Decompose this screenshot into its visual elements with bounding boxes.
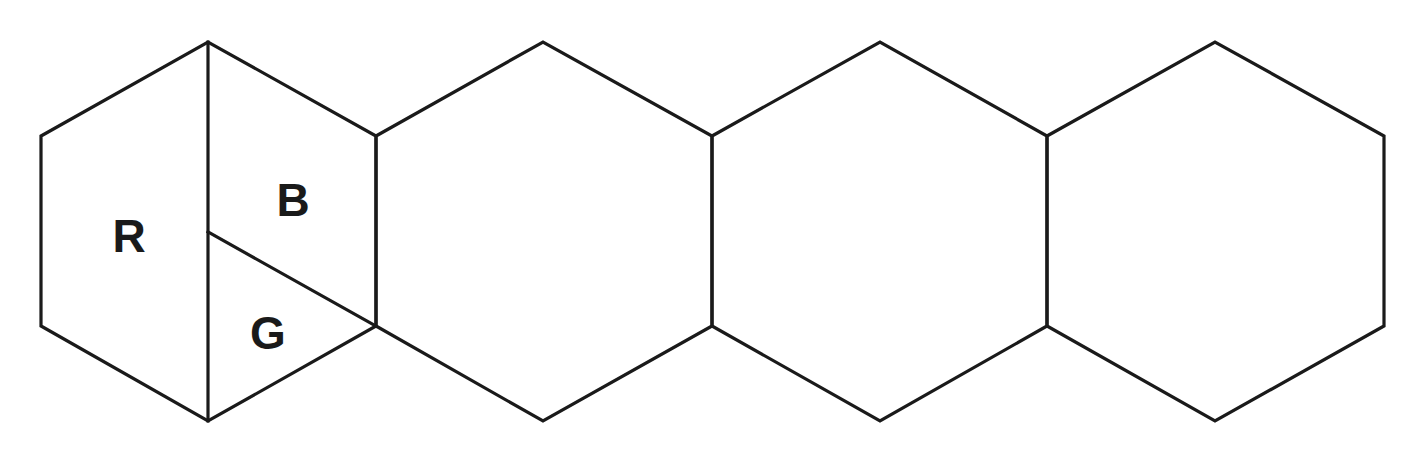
- hex-3-shape: [712, 42, 1047, 421]
- label-layer: R B G: [112, 174, 309, 359]
- hexagon-layer: [41, 42, 1384, 421]
- region-label-g: G: [250, 307, 286, 359]
- region-label-r: R: [112, 210, 145, 262]
- region-label-b: B: [276, 174, 309, 226]
- hex-1-divider-2: [208, 232, 376, 326]
- hexagon-diagram: R B G: [0, 0, 1421, 451]
- hex-4-shape: [1047, 42, 1384, 421]
- divider-layer: [208, 42, 376, 421]
- hex-2-shape: [376, 42, 712, 421]
